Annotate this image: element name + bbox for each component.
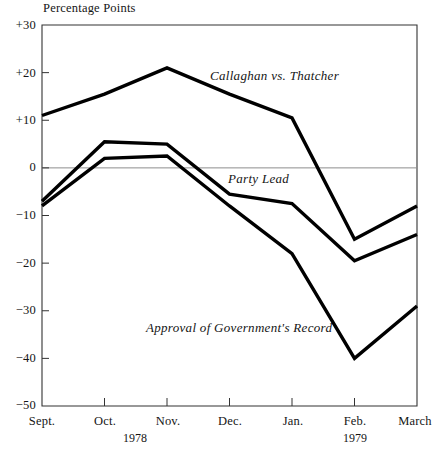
series-lines — [42, 68, 417, 359]
x-axis-ticks — [105, 398, 355, 406]
plot-frame — [42, 25, 417, 406]
chart-plot-area — [0, 0, 444, 450]
series-line — [42, 68, 417, 239]
series-line — [42, 142, 417, 261]
chart-container: Percentage Points +30 +20 +10 0 −10 −20 … — [0, 0, 444, 450]
